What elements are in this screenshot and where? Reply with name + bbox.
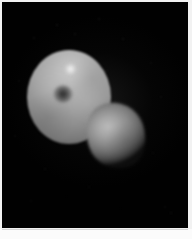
background-speck: [98, 18, 100, 20]
background-speck: [44, 168, 46, 170]
background-speck: [160, 96, 162, 98]
background-speck: [66, 196, 67, 197]
background-speck: [88, 186, 90, 188]
background-speck: [120, 208, 121, 209]
background-speck: [18, 80, 20, 82]
plate-margin-rule: [2, 229, 188, 230]
image-viewer: [0, 0, 192, 239]
background-speck: [164, 206, 166, 208]
background-speck: [33, 37, 35, 39]
background-speck: [152, 152, 154, 154]
dark-central-spot: [53, 85, 73, 103]
background-speck: [170, 212, 172, 214]
background-speck: [74, 33, 76, 35]
background-speck: [106, 70, 108, 72]
bright-highlight-spot: [64, 63, 77, 75]
background-speck: [136, 27, 137, 28]
background-speck: [14, 135, 16, 137]
sky-plate: [2, 2, 188, 228]
background-speck: [122, 38, 124, 40]
background-speck: [30, 200, 32, 202]
background-speck: [141, 118, 142, 119]
background-speck: [56, 24, 58, 26]
background-speck: [150, 62, 152, 64]
plate-bottom-margin: [0, 229, 192, 239]
